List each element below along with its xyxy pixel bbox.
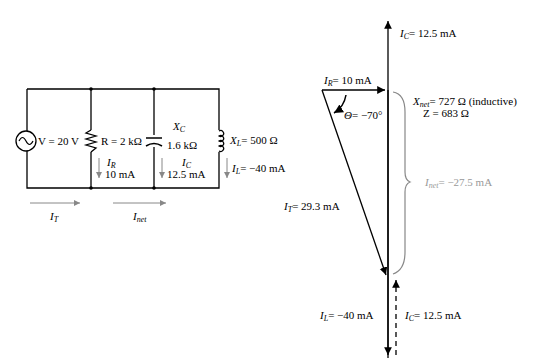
xc-value: 1.6 kΩ xyxy=(167,139,197,151)
il-label: IL= −40 mA xyxy=(231,162,286,176)
inet-label: Inet xyxy=(132,210,147,224)
resistor-label: R = 2 kΩ xyxy=(101,135,142,147)
inet-phasor-label: Inet= −27.5 mA xyxy=(424,176,492,190)
xc-symbol: XC xyxy=(172,120,186,134)
inductor-icon xyxy=(213,130,225,152)
phasor-diagram xyxy=(322,21,410,358)
inet-brace-icon xyxy=(393,92,410,274)
it-label: IT xyxy=(49,210,59,224)
resistor-icon xyxy=(86,130,96,152)
it-phasor-label: IT= 29.3 mA xyxy=(283,200,340,214)
xl-symbol: XL= 500 Ω xyxy=(229,134,278,148)
z-label: Z = 683 Ω xyxy=(423,107,469,119)
ac-source-icon xyxy=(16,131,36,151)
theta-label: Θ= −70° xyxy=(344,109,383,121)
capacitor-icon xyxy=(144,135,164,147)
ir-value: 10 mA xyxy=(105,168,135,180)
il-phasor-label: IL= −40 mA xyxy=(319,309,374,323)
ic-bottom-label: IC= 12.5 mA xyxy=(404,309,462,323)
ic-top-label: IC= 12.5 mA xyxy=(399,27,457,41)
ir-label: IR= 10 mA xyxy=(323,74,372,88)
ic-value: 12.5 mA xyxy=(167,168,206,180)
source-label: V = 20 V xyxy=(38,135,79,147)
circuit-and-phasor-diagram: V = 20 V R = 2 kΩ IR 10 mA XC 1.6 kΩ IC … xyxy=(0,0,545,363)
